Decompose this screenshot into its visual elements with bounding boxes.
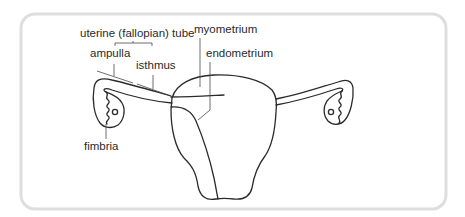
diagram-canvas: uterine (fallopian) tube ampulla isthmus… bbox=[0, 0, 465, 217]
uterus-diagram: uterine (fallopian) tube ampulla isthmus… bbox=[0, 0, 465, 217]
label-fimbria: fimbria bbox=[84, 140, 119, 152]
label-isthmus: isthmus bbox=[136, 59, 176, 71]
diagram-frame bbox=[21, 14, 446, 209]
label-ampulla: ampulla bbox=[90, 47, 131, 59]
label-endometrium: endometrium bbox=[206, 47, 273, 59]
label-uterine-tube: uterine (fallopian) tube bbox=[80, 27, 194, 39]
label-myometrium: myometrium bbox=[194, 23, 257, 35]
